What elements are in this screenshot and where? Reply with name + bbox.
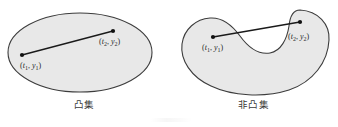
- nonconvex-point-label-1: (t1, y1): [202, 44, 223, 52]
- convex-point-label-2: (t2, y2): [99, 38, 120, 46]
- convex-point-label-1: (t1, y1): [20, 62, 41, 70]
- convex-set-caption: 凸集: [0, 100, 169, 110]
- nonconvex-endpoint-2: [298, 20, 302, 24]
- nonconvex-set-panel: [182, 10, 329, 95]
- convex-endpoint-2: [111, 29, 115, 33]
- scan-artifact: [150, 118, 192, 122]
- convex-set-panel: [8, 13, 152, 92]
- nonconvex-endpoint-1: [211, 35, 215, 39]
- nonconvex-set-caption: 非凸集: [169, 100, 338, 110]
- convex-endpoint-1: [20, 53, 24, 57]
- nonconvex-set-shape: [182, 10, 329, 95]
- nonconvex-point-label-2: (t2, y2): [288, 33, 309, 41]
- convexity-figure: (t1, y1) (t2, y2) (t1, y1) (t2, y2) 凸集 非…: [0, 0, 338, 127]
